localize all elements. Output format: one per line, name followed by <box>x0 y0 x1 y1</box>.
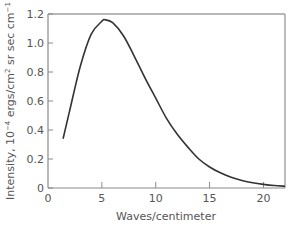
y-tick-label: 1.2 <box>27 8 45 21</box>
y-tick-label: 0.8 <box>27 66 45 79</box>
y-tick-label: 0 <box>37 182 44 195</box>
y-axis: 00.20.40.60.81.01.2 <box>27 8 54 195</box>
y-axis-title: Intensity, 10−4 ergs/cm2 sr sec cm−1 <box>4 2 17 200</box>
x-tick-label: 20 <box>256 192 270 205</box>
intensity-curve <box>63 20 285 187</box>
x-axis-title: Waves/centimeter <box>116 210 216 223</box>
y-tick-label: 0.6 <box>27 95 45 108</box>
y-axis-title-pre: Intensity, 10 <box>4 131 17 200</box>
y-axis-title-post: sr sec cm <box>4 12 17 68</box>
x-tick-label: 5 <box>98 192 105 205</box>
x-tick-label: 15 <box>203 192 217 205</box>
x-axis: 05101520 <box>45 182 271 205</box>
plot-frame <box>48 14 285 188</box>
intensity-chart: 00.20.40.60.81.01.2 05101520 Waves/centi… <box>0 0 299 227</box>
x-tick-label: 10 <box>149 192 163 205</box>
y-tick-label: 0.4 <box>27 124 45 137</box>
y-axis-title-mid: ergs/cm <box>4 73 17 121</box>
x-tick-label: 0 <box>45 192 52 205</box>
y-axis-title-exp3: −1 <box>4 2 12 12</box>
y-tick-label: 0.2 <box>27 153 45 166</box>
y-tick-label: 1.0 <box>27 37 45 50</box>
y-axis-title-exp1: −4 <box>4 120 12 131</box>
